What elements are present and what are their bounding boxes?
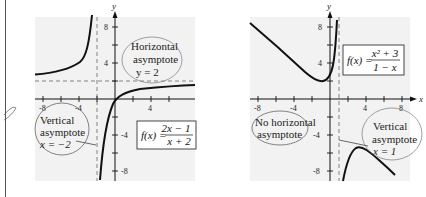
annotation-line: x = 1	[372, 145, 396, 157]
x-axis-arrow-icon	[410, 97, 417, 102]
y-tick-label: 8	[104, 23, 108, 32]
annotation-line: No horizontal	[255, 116, 316, 128]
x-tick-label: -8	[254, 104, 261, 113]
x-tick-label: -4	[290, 104, 297, 113]
annotation-line: asymptote	[372, 133, 417, 145]
annotation-line: asymptote	[257, 128, 302, 140]
y-tick-label: -8	[121, 167, 128, 176]
annotation-line: y = 2	[136, 66, 159, 78]
margin-scribble	[4, 107, 16, 120]
y-tick-label: -4	[313, 131, 320, 140]
y-tick-label: -8	[313, 167, 320, 176]
chart-right: y x -8 -4 4 8 8 4 -4 -8 No horizontal as…	[250, 1, 423, 181]
y-tick-label: 8	[318, 23, 322, 32]
y-axis-label: y	[326, 1, 331, 11]
y-tick-label: 4	[104, 59, 108, 68]
x-tick-label: 4	[148, 104, 152, 113]
x-axis-label: x	[418, 94, 423, 104]
annotation-line: Horizontal	[131, 40, 178, 52]
formula-numerator: x² + 3	[371, 47, 399, 59]
annotation-line: Vertical	[40, 114, 74, 126]
y-tick-label: 4	[318, 59, 322, 68]
annotation-line: Vertical	[373, 120, 407, 132]
formula-numerator: 2x − 1	[162, 122, 191, 134]
y-tick-label: -4	[121, 131, 128, 140]
annotation-line: x = −2	[39, 138, 71, 150]
y-axis-arrow-icon	[328, 11, 333, 18]
y-axis-label: y	[111, 1, 116, 11]
formula-denominator: x + 2	[166, 135, 191, 147]
x-tick-label: 4	[363, 104, 367, 113]
formula-label: f(x) =	[347, 54, 372, 67]
chart-left: y -8 -4 4 8 4 -4 -8 Horizontal asymptote…	[35, 1, 196, 181]
y-axis-arrow-icon	[113, 11, 118, 18]
figure-canvas: y -8 -4 4 8 4 -4 -8 Horizontal asymptote…	[0, 0, 426, 197]
annotation-line: asymptote	[40, 126, 85, 138]
formula-denominator: 1 − x	[373, 61, 396, 73]
annotation-line: asymptote	[133, 53, 178, 65]
